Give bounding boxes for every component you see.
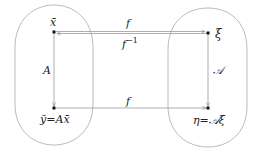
label-f-inverse: f−1	[122, 37, 138, 50]
node-x-bar	[53, 31, 56, 34]
label-A-right: 𝒜	[213, 65, 223, 76]
node-eta	[207, 107, 210, 110]
label-xi: ξ	[215, 28, 222, 40]
label-A-left: A	[43, 65, 51, 76]
node-xi	[207, 32, 210, 35]
label-eta: η=𝒜ξ	[193, 115, 225, 126]
label-y-bar: ȳ=Ax̄	[40, 114, 70, 125]
label-x-bar: x̄	[50, 17, 56, 28]
label-f-bottom: f	[126, 96, 130, 107]
node-y-bar	[53, 107, 56, 110]
label-f-top: f	[126, 18, 130, 29]
